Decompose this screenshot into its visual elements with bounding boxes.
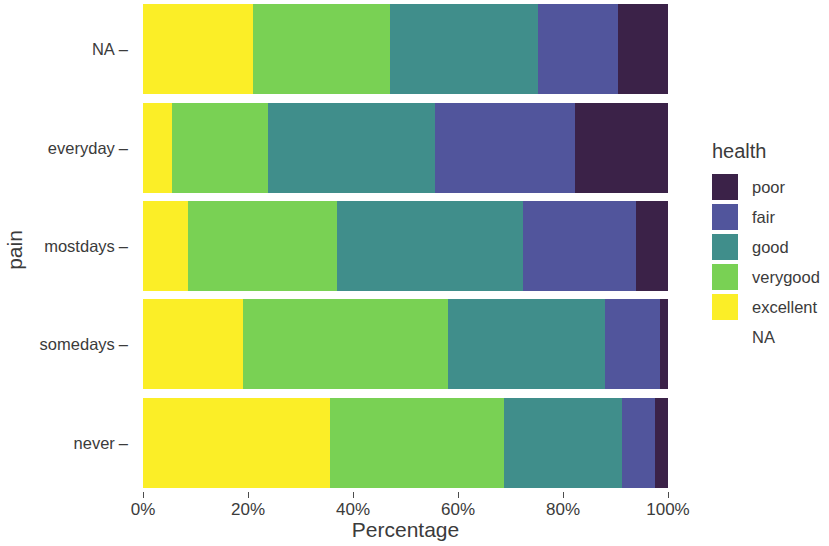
legend-swatch-verygood [712, 264, 738, 290]
x-tick-label: 20% [231, 500, 265, 520]
bar-segment-good [504, 398, 622, 488]
bar-segment-poor [660, 299, 668, 389]
x-tick-label: 80% [546, 500, 580, 520]
y-tick-label-never: never– [74, 433, 128, 452]
legend-label-excellent: excellent [752, 298, 817, 317]
x-tick-label: 60% [441, 500, 475, 520]
bar-row [143, 4, 668, 94]
bar-segment-fair [605, 299, 660, 389]
legend-swatch-NA [712, 324, 738, 350]
bar-segment-excellent [143, 398, 330, 488]
stacked-bar-chart: pain NA–everyday–mostdays–somedays–never… [0, 0, 829, 546]
legend-item-NA[interactable]: NA [700, 323, 829, 351]
x-tick-mark [458, 492, 459, 498]
bar-row [143, 103, 668, 193]
bar-segment-verygood [330, 398, 504, 488]
x-tick-mark [563, 492, 564, 498]
bar-segment-good [337, 201, 523, 291]
bar-segment-poor [618, 4, 668, 94]
bar-segment-fair [435, 103, 575, 193]
y-tick-label-somedays: somedays– [40, 335, 128, 354]
legend-title: health [712, 140, 829, 163]
x-tick-label: 0% [131, 500, 156, 520]
legend-swatch-excellent [712, 294, 738, 320]
legend-label-fair: fair [752, 208, 775, 227]
legend-swatch-poor [712, 174, 738, 200]
bar-segment-fair [622, 398, 655, 488]
bar-segment-poor [636, 201, 668, 291]
x-tick-mark [143, 492, 144, 498]
bar-segment-fair [538, 4, 617, 94]
bar-segment-fair [523, 201, 636, 291]
x-axis-title: Percentage [143, 518, 668, 542]
legend-item-poor[interactable]: poor [700, 173, 829, 201]
bar-segment-verygood [188, 201, 337, 291]
bar-segment-excellent [143, 103, 172, 193]
y-tick-label-mostdays: mostdays– [44, 237, 128, 256]
legend-label-NA: NA [752, 328, 775, 347]
y-tick-label-NA: NA– [92, 40, 128, 59]
y-axis-tick-labels: NA–everyday–mostdays–somedays–never– [30, 0, 138, 492]
legend-label-verygood: verygood [752, 268, 820, 287]
bar-segment-verygood [253, 4, 390, 94]
legend-label-poor: poor [752, 178, 785, 197]
bar-segment-poor [655, 398, 668, 488]
y-axis-title-label: pain [3, 230, 27, 270]
bar-segment-excellent [143, 4, 253, 94]
legend-swatch-good [712, 234, 738, 260]
x-tick-label: 100% [646, 500, 689, 520]
x-tick-mark [248, 492, 249, 498]
bar-row [143, 201, 668, 291]
legend-items: poorfairgoodverygoodexcellentNA [700, 173, 829, 351]
legend-swatch-fair [712, 204, 738, 230]
bar-segment-verygood [243, 299, 448, 389]
legend: health poorfairgoodverygoodexcellentNA [700, 140, 829, 353]
bar-segment-good [448, 299, 606, 389]
bar-row [143, 398, 668, 488]
bar-segment-good [390, 4, 538, 94]
y-axis-title: pain [0, 0, 30, 500]
x-tick-mark [668, 492, 669, 498]
bar-segment-verygood [172, 103, 268, 193]
bar-segment-excellent [143, 299, 243, 389]
legend-item-excellent[interactable]: excellent [700, 293, 829, 321]
plot-area [143, 0, 668, 492]
x-tick-label: 40% [336, 500, 370, 520]
y-tick-label-everyday: everyday– [48, 138, 128, 157]
legend-label-good: good [752, 238, 789, 257]
bar-segment-poor [575, 103, 668, 193]
bar-segment-good [268, 103, 435, 193]
legend-item-verygood[interactable]: verygood [700, 263, 829, 291]
bar-segment-excellent [143, 201, 188, 291]
bar-row [143, 299, 668, 389]
legend-item-fair[interactable]: fair [700, 203, 829, 231]
x-tick-mark [353, 492, 354, 498]
legend-item-good[interactable]: good [700, 233, 829, 261]
